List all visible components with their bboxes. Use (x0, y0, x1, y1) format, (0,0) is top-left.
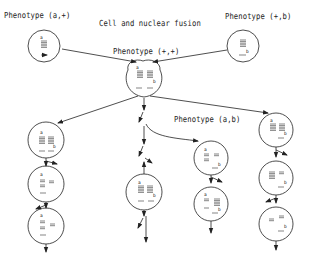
svg-text:a: a (270, 118, 273, 123)
svg-text:b: b (284, 180, 287, 185)
svg-text:a: a (136, 65, 139, 70)
svg-text:a: a (204, 147, 207, 152)
cell-parent-b (227, 30, 259, 62)
svg-text:b: b (153, 193, 156, 198)
svg-text:b: b (153, 79, 156, 84)
svg-text:a: a (40, 213, 43, 218)
svg-text:b: b (284, 224, 287, 229)
svg-text:b: b (218, 162, 221, 167)
svg-text:b: b (53, 144, 56, 149)
svg-text:a: a (40, 130, 43, 135)
svg-text:a: a (204, 192, 207, 197)
svg-text:a: a (40, 35, 43, 40)
diagram-graphics: a b a b a b a (0, 0, 309, 255)
svg-text:b: b (218, 207, 221, 212)
svg-text:b: b (246, 49, 249, 54)
cell-fusion-diagram: Phenotype (a,+) Cell and nuclear fusion … (0, 0, 309, 255)
svg-text:b: b (284, 131, 287, 136)
svg-text:a: a (40, 172, 43, 177)
cell-fused (126, 60, 162, 97)
svg-text:a: a (138, 180, 141, 185)
